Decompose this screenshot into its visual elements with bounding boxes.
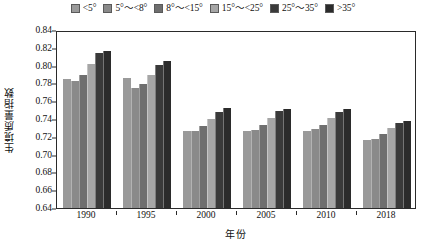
y-tick-label: 0.74 xyxy=(35,115,52,125)
bar-group xyxy=(357,32,417,208)
bar[interactable] xyxy=(395,123,403,208)
x-tick-mark xyxy=(176,211,177,215)
bar[interactable] xyxy=(103,51,111,208)
legend-item-label: >35° xyxy=(337,4,355,14)
bar[interactable] xyxy=(199,126,207,208)
x-tick-mark xyxy=(116,211,117,215)
x-tick-label: 2000 xyxy=(176,211,236,225)
legend-item-label: 5°～<8° xyxy=(115,4,147,14)
y-tick-label: 0.82 xyxy=(35,44,52,54)
bar[interactable] xyxy=(223,108,231,208)
legend-swatch-icon xyxy=(103,4,112,13)
bar[interactable] xyxy=(303,131,311,208)
y-tick-label: 0.64 xyxy=(35,204,52,214)
plot-frame xyxy=(56,31,416,209)
bar-group xyxy=(237,32,297,208)
bar[interactable] xyxy=(87,64,95,208)
x-tick-mark xyxy=(296,211,297,215)
x-axis-title: 年份 xyxy=(56,226,416,241)
bar[interactable] xyxy=(311,129,319,208)
bar[interactable] xyxy=(267,118,275,208)
bar[interactable] xyxy=(343,109,351,208)
y-tick-label: 0.76 xyxy=(35,97,52,107)
x-tick-label: 2005 xyxy=(236,211,296,225)
bar-group xyxy=(57,32,117,208)
bar[interactable] xyxy=(387,128,395,208)
bar[interactable] xyxy=(63,79,71,208)
bar[interactable] xyxy=(163,61,171,208)
bar[interactable] xyxy=(139,84,147,208)
bar[interactable] xyxy=(403,121,411,208)
bar[interactable] xyxy=(215,112,223,208)
legend-item[interactable]: 8°～<15° xyxy=(154,4,203,14)
bar[interactable] xyxy=(319,125,327,208)
bar[interactable] xyxy=(183,131,191,208)
legend-item-label: 25°～35° xyxy=(282,4,318,14)
bar[interactable] xyxy=(259,125,267,208)
legend-item[interactable]: 5°～<8° xyxy=(103,4,147,14)
x-tick-mark xyxy=(236,211,237,215)
bar[interactable] xyxy=(283,109,291,208)
bar[interactable] xyxy=(155,65,163,208)
y-tick-label: 0.70 xyxy=(35,151,52,161)
bar[interactable] xyxy=(71,81,79,208)
legend-swatch-icon xyxy=(270,4,279,13)
y-tick-label: 0.84 xyxy=(35,26,52,36)
y-tick-label: 0.68 xyxy=(35,169,52,179)
bar[interactable] xyxy=(207,119,215,208)
bar[interactable] xyxy=(191,131,199,208)
legend-swatch-icon xyxy=(154,4,163,13)
legend-swatch-icon xyxy=(71,4,80,13)
y-tick-label: 0.66 xyxy=(35,186,52,196)
x-tick-label: 2010 xyxy=(296,211,356,225)
bar[interactable] xyxy=(251,130,259,208)
x-tick-label: 2018 xyxy=(356,211,416,225)
legend-swatch-icon xyxy=(325,4,334,13)
bar[interactable] xyxy=(243,131,251,208)
x-tick-label: 1995 xyxy=(116,211,176,225)
y-tick-label: 0.72 xyxy=(35,133,52,143)
bar[interactable] xyxy=(131,88,139,208)
x-axis-labels: 199019952000200520102018 xyxy=(56,211,416,225)
bar-group xyxy=(177,32,237,208)
bar-group xyxy=(297,32,357,208)
bar-group xyxy=(117,32,177,208)
legend-swatch-icon xyxy=(210,4,219,13)
bar[interactable] xyxy=(79,75,87,209)
bar[interactable] xyxy=(95,53,103,208)
bar[interactable] xyxy=(147,75,155,209)
bar[interactable] xyxy=(275,111,283,208)
legend-item[interactable]: 15°～<25° xyxy=(210,4,263,14)
x-tick-mark xyxy=(356,211,357,215)
chart-root: <5°5°～<8°8°～<15°15°～<25°25°～35°>35° 生境质量… xyxy=(0,0,426,243)
legend-item-label: <5° xyxy=(83,4,97,14)
legend-item[interactable]: 25°～35° xyxy=(270,4,318,14)
bar[interactable] xyxy=(335,112,343,208)
bar[interactable] xyxy=(327,118,335,208)
chart-legend: <5°5°～<8°8°～<15°15°～<25°25°～35°>35° xyxy=(0,4,426,14)
bar[interactable] xyxy=(123,78,131,208)
plot-area xyxy=(57,32,415,208)
x-tick-label: 1990 xyxy=(56,211,116,225)
legend-item-label: 15°～<25° xyxy=(222,4,263,14)
bar[interactable] xyxy=(379,134,387,208)
y-tick-label: 0.78 xyxy=(35,80,52,90)
y-axis-ticks: 0.840.820.800.780.760.740.720.700.680.66… xyxy=(0,31,56,209)
legend-item[interactable]: <5° xyxy=(71,4,97,14)
bar[interactable] xyxy=(363,140,371,208)
legend-item[interactable]: >35° xyxy=(325,4,355,14)
y-tick-label: 0.80 xyxy=(35,62,52,72)
bar[interactable] xyxy=(371,139,379,208)
legend-item-label: 8°～<15° xyxy=(166,4,203,14)
